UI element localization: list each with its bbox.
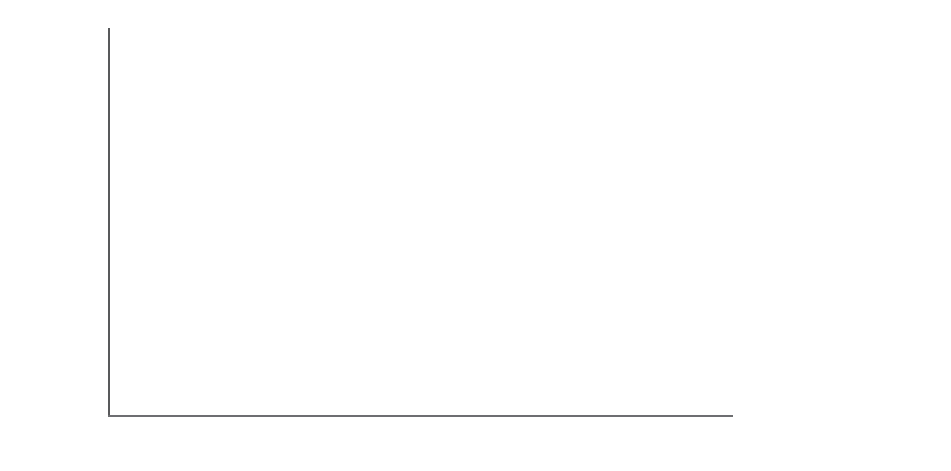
plot-area: [0, 0, 951, 471]
stacked-bar-chart: [0, 0, 951, 471]
